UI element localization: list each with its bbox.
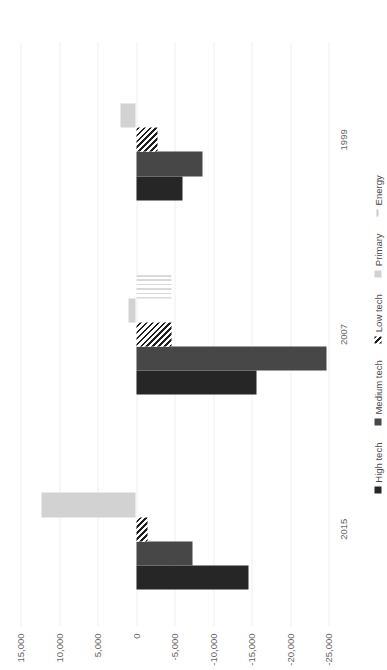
rotated-figure-wrapper: 15,00010,0005,0000-5,000-10,000-15,000-2…: [0, 0, 387, 670]
legend-item-medium-tech[interactable]: Medium tech: [372, 360, 383, 425]
legend-item-label: Primary: [372, 233, 383, 266]
legend-swatch-icon: [374, 270, 381, 277]
value-axis-tick-label: 15,000: [15, 633, 25, 662]
category-axis-label-2007: 2007: [337, 323, 348, 344]
value-axis-tick-label: -25,000: [323, 633, 333, 665]
bar-medium-tech-2015: [136, 541, 193, 565]
bar-medium-tech-2007: [136, 346, 327, 370]
value-axis-tick-label: -10,000: [208, 633, 218, 665]
bar-high-tech-2015: [136, 565, 248, 589]
bar-group-1999: 1999: [20, 42, 328, 237]
bar-cluster: [20, 274, 328, 395]
bar-low-tech-2015: [136, 517, 148, 541]
bar-high-tech-2007: [136, 370, 256, 394]
value-axis-tick-label: -5,000: [169, 633, 179, 660]
bar-group-2015: 2015: [20, 431, 328, 626]
bar-primary-2007: [128, 298, 136, 322]
category-axis-label-1999: 1999: [337, 129, 348, 150]
value-axis-tick-label: 10,000: [54, 633, 64, 662]
legend-item-label: Low tech: [372, 294, 383, 332]
legend-item-label: High tech: [372, 442, 383, 482]
legend-swatch-icon: [374, 418, 381, 425]
bar-medium-tech-1999: [136, 151, 202, 175]
value-axis-tick-label: 5,000: [92, 633, 102, 657]
bar-primary-2015: [41, 492, 136, 516]
legend-swatch-icon: [374, 486, 381, 493]
legend-swatch-icon: [374, 336, 381, 343]
screenshot-canvas: 15,00010,0005,0000-5,000-10,000-15,000-2…: [0, 0, 387, 670]
plot-area: 15,00010,0005,0000-5,000-10,000-15,000-2…: [20, 42, 328, 626]
bar-low-tech-1999: [136, 127, 158, 151]
chart-figure: 15,00010,0005,0000-5,000-10,000-15,000-2…: [0, 0, 387, 670]
bar-low-tech-2007: [136, 322, 171, 346]
legend-item-primary[interactable]: Primary: [372, 233, 383, 277]
category-axis-label-2015: 2015: [337, 518, 348, 539]
bar-high-tech-1999: [136, 176, 183, 200]
legend-item-low-tech[interactable]: Low tech: [372, 294, 383, 343]
legend-item-label: Medium tech: [372, 360, 383, 414]
bar-primary-1999: [120, 103, 135, 127]
value-axis-tick-label: -15,000: [246, 633, 256, 665]
chart-legend: High techMedium techLow techPrimaryEnerg…: [369, 42, 385, 626]
bar-group-2007: 2007: [20, 237, 328, 432]
legend-item-label: Energy: [372, 175, 383, 205]
value-axis-tick-label: -20,000: [285, 633, 295, 665]
legend-item-energy[interactable]: Energy: [372, 175, 383, 216]
bar-cluster: [20, 79, 328, 200]
legend-line-icon: [376, 209, 378, 216]
value-axis-tick-label: 0: [131, 633, 141, 638]
legend-item-high-tech[interactable]: High tech: [372, 442, 383, 493]
bar-energy-2007: [136, 274, 171, 298]
bar-cluster: [20, 468, 328, 589]
